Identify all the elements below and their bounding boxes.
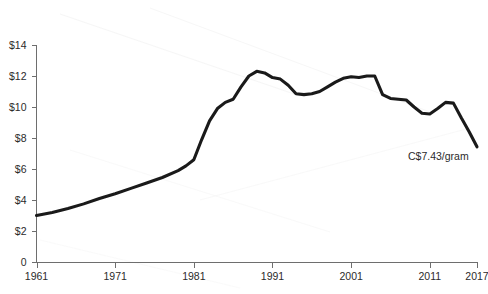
y-tick-label: $8 — [15, 132, 27, 144]
x-tick-label: 2001 — [339, 270, 363, 282]
x-tick-label: 1961 — [25, 270, 49, 282]
y-tick-label: $14 — [9, 39, 27, 51]
y-tick-label: $12 — [9, 70, 27, 82]
y-axis: $14$12$10$8$6$4$20 — [9, 39, 37, 268]
scan-artifacts — [40, 8, 470, 288]
x-tick-label: 1991 — [261, 270, 285, 282]
y-tick-label: $4 — [15, 194, 27, 206]
x-axis: 1961197119811991200120112017 — [25, 262, 488, 282]
y-tick-label: $6 — [15, 163, 27, 175]
y-tick-group: $14$12$10$8$6$4$20 — [9, 39, 37, 268]
y-tick-label: $2 — [15, 225, 27, 237]
y-tick-label: 0 — [21, 256, 27, 268]
y-tick-label: $10 — [9, 101, 27, 113]
chart-canvas: $14$12$10$8$6$4$20 196119711981199120012… — [0, 0, 488, 294]
end-value-annotation: C$7.43/gram — [408, 150, 469, 162]
x-tick-label: 1981 — [182, 270, 206, 282]
price-line-chart: $14$12$10$8$6$4$20 196119711981199120012… — [0, 0, 488, 294]
x-tick-label: 2011 — [419, 270, 442, 282]
x-tick-group: 1961197119811991200120112017 — [25, 262, 488, 282]
x-tick-label: 1971 — [103, 270, 127, 282]
x-tick-label: 2017 — [465, 270, 488, 282]
